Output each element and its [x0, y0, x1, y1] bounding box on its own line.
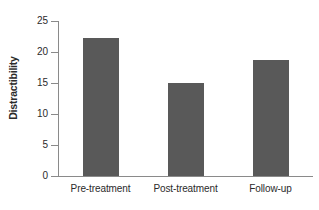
y-tick-mark-5: [51, 145, 58, 146]
y-tick-label-25: 25: [26, 16, 48, 26]
y-tick-mark-25: [51, 21, 58, 22]
y-axis-title: Distractibility: [6, 0, 20, 176]
y-tick-mark-10: [51, 114, 58, 115]
y-tick-mark-15: [51, 83, 58, 84]
x-label-follow-up: Follow-up: [228, 183, 313, 195]
y-tick-mark-0: [51, 176, 58, 177]
bar-post-treatment: [168, 83, 204, 176]
y-tick-label-20: 20: [26, 47, 48, 57]
plot-area: [58, 21, 313, 176]
y-tick-label-15: 15: [26, 78, 48, 88]
bar-pre-treatment: [83, 38, 119, 176]
y-tick-label-10: 10: [26, 109, 48, 119]
bar-follow-up: [253, 60, 289, 176]
x-label-pre-treatment: Pre-treatment: [58, 183, 143, 195]
y-tick-label-0: 0: [26, 171, 48, 181]
y-tick-label-5: 5: [26, 140, 48, 150]
x-axis-category-labels: Pre-treatment Post-treatment Follow-up: [58, 183, 313, 199]
x-label-post-treatment: Post-treatment: [143, 183, 228, 195]
x-axis-line: [58, 176, 313, 177]
y-tick-mark-20: [51, 52, 58, 53]
y-axis-tick-labels: 25 20 15 10 5 0: [26, 0, 48, 210]
bar-chart: Distractibility 25 20 15 10 5 0 Pre-trea…: [0, 0, 319, 210]
